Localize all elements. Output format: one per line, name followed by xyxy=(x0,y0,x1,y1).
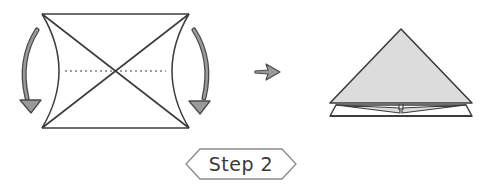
step-label: Step 2 xyxy=(185,148,297,180)
folding-square xyxy=(42,14,189,128)
right-curved-side xyxy=(172,14,189,128)
left-curved-down-arrow-icon xyxy=(20,30,41,113)
right-curved-down-arrow-icon xyxy=(189,30,210,114)
right-arrow-icon xyxy=(255,64,280,80)
folded-triangle xyxy=(330,29,472,116)
main-triangle xyxy=(330,29,472,103)
left-curved-side xyxy=(42,14,59,128)
step-badge: Step 2 xyxy=(185,148,297,180)
